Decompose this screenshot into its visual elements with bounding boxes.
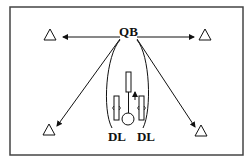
blocking-bag-right bbox=[139, 96, 144, 120]
dl-right-label: DL bbox=[137, 129, 155, 144]
blocking-bag-center bbox=[126, 72, 131, 92]
ball-circle bbox=[122, 113, 134, 125]
blocking-bag-left bbox=[114, 96, 119, 120]
qb-label: QB bbox=[119, 24, 138, 39]
drill-diagram: QB DL DL bbox=[0, 0, 247, 165]
dl-left-label: DL bbox=[108, 129, 126, 144]
